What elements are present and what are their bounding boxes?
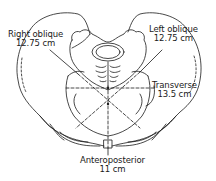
diameters: [66, 72, 154, 148]
promontory-point: [107, 87, 109, 89]
right-oblique-label: Right oblique 12.75 cm: [8, 30, 63, 48]
left-oblique-value: 12.75 cm: [149, 34, 198, 43]
sacrum: [70, 30, 146, 90]
vertebral-body-inner: [96, 46, 120, 59]
anteroposterior-value: 11 cm: [80, 165, 145, 174]
transverse-label: Transverse 13.5 cm: [152, 81, 197, 99]
center-point: [107, 103, 109, 105]
right-oblique-leader: [50, 50, 78, 74]
right-oblique-diameter: [78, 74, 140, 128]
transverse-value: 13.5 cm: [152, 90, 197, 99]
anteroposterior-label: Anteroposterior 11 cm: [80, 156, 145, 174]
right-oblique-value: 12.75 cm: [8, 39, 63, 48]
left-oblique-label: Left oblique 12.75 cm: [149, 25, 198, 43]
